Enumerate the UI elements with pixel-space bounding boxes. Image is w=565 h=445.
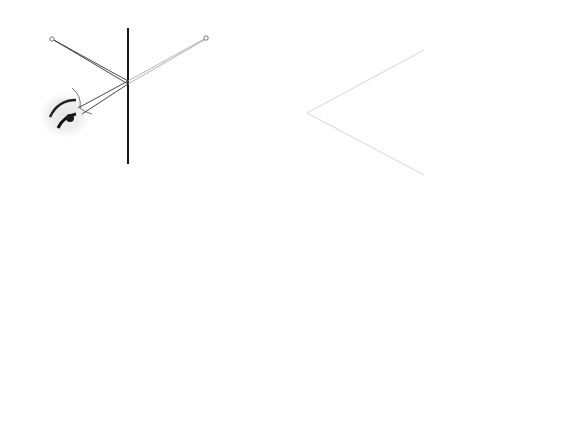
image-point xyxy=(204,36,208,40)
figure-23-13-plane-mirror xyxy=(37,28,208,164)
figure-23-14-concave-mirror xyxy=(300,50,424,175)
figures-canvas xyxy=(0,0,565,445)
eye-illustration xyxy=(37,88,93,141)
object-point xyxy=(50,37,54,41)
